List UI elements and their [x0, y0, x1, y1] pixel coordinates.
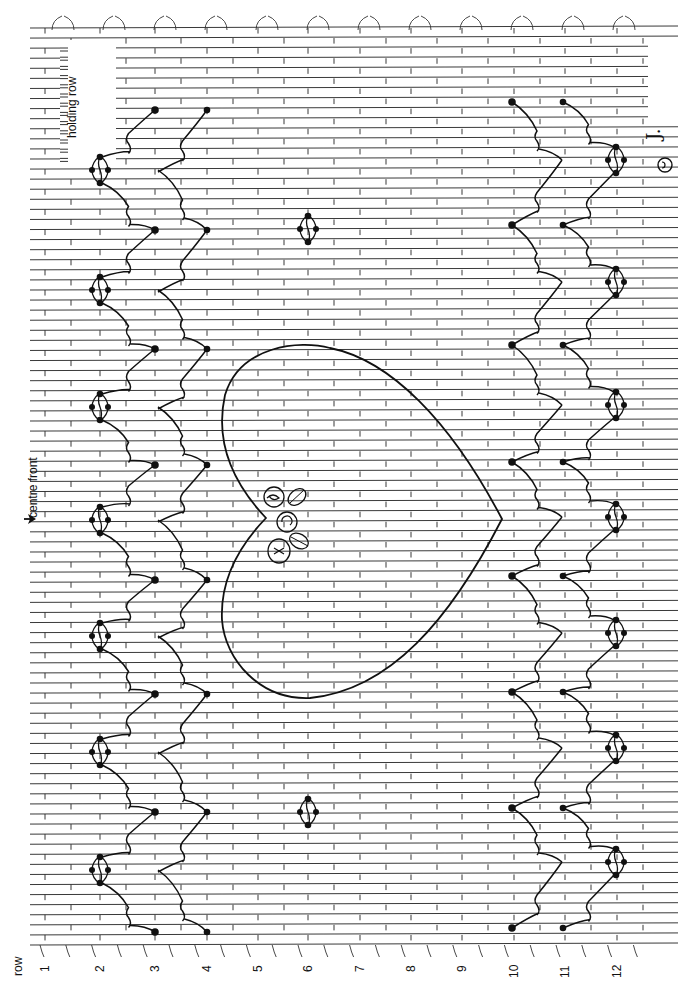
knot-dot — [621, 745, 627, 751]
cable-wave — [102, 649, 155, 694]
pleat-line — [30, 641, 678, 643]
scallop — [562, 16, 584, 30]
scallop — [479, 945, 483, 957]
cable-wave — [158, 580, 207, 638]
scallop — [307, 16, 329, 30]
scallop — [298, 945, 302, 957]
pleat-line — [30, 419, 678, 421]
knot-dot — [89, 167, 95, 173]
pleat-line — [30, 752, 678, 754]
centre-front-label: centre front — [26, 457, 40, 518]
cable-wave — [563, 576, 614, 620]
scallop — [358, 16, 380, 30]
cable-wave — [158, 110, 207, 172]
pleat-line — [30, 147, 678, 149]
motifs — [89, 98, 627, 936]
cable-wave — [563, 462, 614, 504]
pleat-line — [30, 308, 678, 310]
cable-wave — [512, 405, 562, 462]
pleat-line — [30, 540, 678, 542]
leaf-top — [285, 485, 309, 509]
knot-dot — [605, 514, 611, 520]
pleat-line — [30, 117, 678, 119]
smocking-chart: holding row centre front — [0, 0, 692, 988]
scallop — [92, 945, 96, 957]
cable-wave — [102, 580, 155, 623]
pleat-line — [30, 631, 678, 633]
scallop — [143, 945, 147, 957]
knot-dot — [89, 633, 95, 639]
scallop — [633, 945, 637, 957]
cable-wave — [102, 694, 155, 739]
knot-dot — [105, 867, 111, 873]
pleat-line — [30, 86, 678, 88]
cable-wave — [512, 633, 562, 692]
row-label-12: 12 — [610, 964, 624, 978]
row-label-7: 7 — [353, 965, 367, 972]
cable-wave — [102, 533, 155, 580]
pleat-line — [30, 772, 678, 774]
scallop — [427, 945, 431, 957]
cable-wave — [512, 576, 562, 633]
knot-dot — [605, 402, 611, 408]
pleat-lines — [30, 26, 678, 945]
pleat-line — [30, 228, 678, 230]
diamond-knot — [605, 732, 627, 765]
knot-dot — [621, 630, 627, 636]
knot-dot — [105, 517, 111, 523]
row-label-9: 9 — [455, 965, 469, 972]
scallop — [375, 945, 379, 957]
row-label-6: 6 — [301, 965, 315, 972]
pleat-line — [30, 782, 678, 784]
pleat-line — [30, 369, 678, 371]
scallop — [256, 16, 278, 30]
pleat-line — [30, 923, 678, 925]
pleat-line — [30, 167, 678, 169]
pleat-line — [30, 762, 678, 764]
pleat-line — [30, 933, 678, 935]
cable-wave — [563, 692, 614, 735]
pleat-line — [30, 691, 678, 693]
pleat-line — [30, 399, 678, 401]
knot-dot — [305, 822, 312, 829]
pleat-line — [30, 832, 678, 834]
scallop — [453, 945, 457, 957]
signature: J. — [643, 128, 672, 172]
pleat-line — [30, 893, 678, 895]
row-label-1: 1 — [38, 965, 52, 972]
cable-wave — [512, 862, 562, 928]
scallop — [409, 16, 431, 30]
pleat-line — [30, 520, 678, 522]
knot-dot — [313, 226, 319, 232]
knot-dot — [621, 157, 627, 163]
scallop — [66, 945, 70, 957]
scallop — [195, 945, 199, 957]
scallop — [401, 945, 405, 957]
holding-row-panel-right — [648, 40, 692, 122]
pleat-line — [30, 822, 678, 824]
scallop — [324, 945, 328, 957]
knot-dot — [105, 167, 111, 173]
knot-dot — [605, 157, 611, 163]
pleat-line — [30, 530, 678, 532]
pleat-line — [30, 76, 678, 78]
pleat-line — [30, 187, 678, 189]
knot-dot — [621, 514, 627, 520]
diamond-knot — [605, 617, 627, 650]
scallop — [511, 16, 533, 30]
scallop — [40, 945, 44, 957]
pleat-line — [30, 348, 678, 350]
pleat-line — [30, 883, 678, 885]
pleat-line — [30, 741, 678, 743]
knot-dot — [621, 279, 627, 285]
cable-wave — [512, 102, 562, 160]
pleat-line — [30, 268, 678, 270]
knot-dot — [105, 633, 111, 639]
scallop — [504, 945, 508, 957]
row-label-10: 10 — [507, 964, 521, 978]
cable-wave — [158, 465, 207, 522]
pleat-line — [30, 26, 678, 28]
knot-dot — [89, 749, 95, 755]
pleat-line — [30, 429, 678, 431]
scallop — [530, 945, 534, 957]
